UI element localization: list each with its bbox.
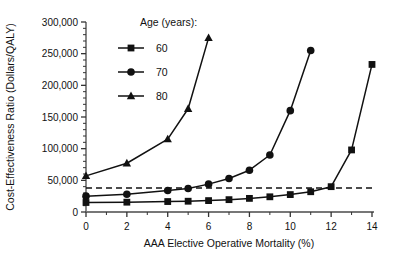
series-marker-square xyxy=(123,199,130,206)
series-marker-circle xyxy=(123,190,131,198)
legend-entry-60[interactable]: 60 xyxy=(118,42,168,54)
x-axis-title: AAA Elective Operative Mortality (%) xyxy=(144,237,314,249)
series-marker-circle xyxy=(225,175,233,183)
legend-label-60: 60 xyxy=(156,42,168,54)
y-tick-label: 100,000 xyxy=(42,143,79,154)
y-tick-label: 200,000 xyxy=(42,80,79,91)
cost-effectiveness-chart: 050,000100,000150,000200,000250,000300,0… xyxy=(0,0,395,257)
x-tick-label: 14 xyxy=(366,221,378,232)
series-marker-square xyxy=(185,198,192,205)
x-tick-label: 2 xyxy=(124,221,130,232)
y-tick-label: 300,000 xyxy=(42,17,79,28)
series-marker-circle xyxy=(164,187,172,195)
series-marker-square xyxy=(83,199,90,206)
x-tick-label: 8 xyxy=(247,221,253,232)
legend-label-70: 70 xyxy=(156,66,168,78)
series-80 xyxy=(82,33,213,179)
x-tick-label: 0 xyxy=(83,221,89,232)
series-marker-circle xyxy=(184,185,192,193)
series-70 xyxy=(82,47,314,200)
series-60 xyxy=(83,61,376,206)
legend-entry-70[interactable]: 70 xyxy=(118,66,168,78)
series-marker-square xyxy=(307,188,314,195)
series-marker-square xyxy=(226,196,233,203)
x-tick-label: 6 xyxy=(206,221,212,232)
legend-title: Age (years): xyxy=(140,16,197,28)
series-marker-square xyxy=(328,183,335,190)
chart-canvas: 050,000100,000150,000200,000250,000300,0… xyxy=(0,0,395,257)
series-line-80 xyxy=(86,38,209,176)
legend-entry-80[interactable]: 80 xyxy=(118,90,168,102)
y-tick-label: 0 xyxy=(72,207,78,218)
series-marker-square xyxy=(205,197,212,204)
series-marker-circle xyxy=(82,192,90,200)
y-axis-title: Cost-Effectiveness Ratio (Dollars/QALY) xyxy=(4,23,16,211)
series-marker-circle xyxy=(286,107,294,115)
series-marker-circle xyxy=(246,166,254,174)
series-marker-square xyxy=(348,147,355,154)
series-marker-square xyxy=(369,61,376,68)
series-marker-circle xyxy=(205,180,213,188)
x-tick-label: 12 xyxy=(326,221,338,232)
series-marker-square xyxy=(164,198,171,205)
series-marker-triangle xyxy=(184,104,192,112)
y-tick-label: 50,000 xyxy=(47,175,78,186)
series-marker-triangle xyxy=(204,33,212,41)
x-tick-label: 10 xyxy=(285,221,297,232)
series-marker-square xyxy=(287,191,294,198)
x-tick-label: 4 xyxy=(165,221,171,232)
legend-label-80: 80 xyxy=(156,90,168,102)
series-marker-square xyxy=(246,195,253,202)
series-marker-square xyxy=(128,45,135,52)
series-marker-square xyxy=(266,193,273,200)
y-tick-label: 150,000 xyxy=(42,112,79,123)
series-marker-circle xyxy=(127,68,135,76)
y-tick-label: 250,000 xyxy=(42,48,79,59)
series-marker-triangle xyxy=(123,159,131,167)
series-marker-circle xyxy=(307,47,315,55)
series-marker-circle xyxy=(266,151,274,159)
